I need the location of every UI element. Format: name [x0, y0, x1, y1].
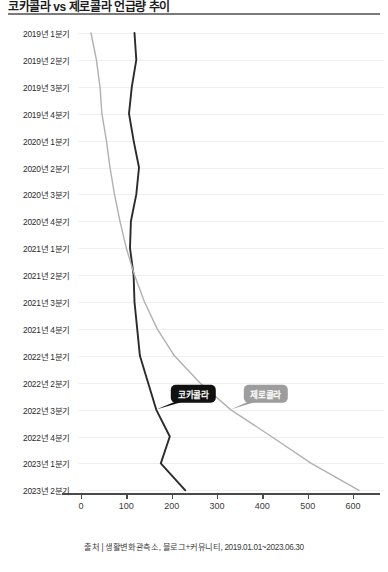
x-axis-tick-label: 0	[78, 501, 83, 511]
x-axis-tick-label: 100	[119, 501, 134, 511]
page-title: 코카콜라 vs 제로콜라 언급량 추이	[8, 0, 170, 14]
source-note: 출처 | 생활변화관측소, 블로그+커뮤니티, 2019.01.01~2023.…	[0, 540, 388, 552]
x-axis-tick	[262, 493, 263, 499]
title-divider	[8, 13, 380, 15]
x-axis-tick	[353, 493, 354, 499]
x-axis-tick	[217, 493, 218, 499]
series-line-coke	[129, 33, 185, 490]
series-label-zero: 제로콜라	[243, 384, 287, 403]
chart-plot-area: 2019년 1분기2019년 2분기2019년 3분기2019년 4분기2020…	[0, 20, 388, 515]
x-axis-tick	[308, 493, 309, 499]
series-lines	[0, 20, 388, 515]
series-label-coke: 코카콜라	[171, 384, 215, 403]
x-axis-tick-label: 200	[164, 501, 179, 511]
x-axis-tick	[172, 493, 173, 499]
x-axis-line	[62, 493, 380, 495]
x-axis-tick-label: 300	[209, 501, 224, 511]
chart-page: 코카콜라 vs 제로콜라 언급량 추이 2019년 1분기2019년 2분기20…	[0, 0, 388, 572]
x-axis-tick-label: 500	[300, 501, 315, 511]
x-axis-tick-label: 400	[255, 501, 270, 511]
x-axis: 0100200300400500600	[0, 493, 388, 533]
x-axis-tick	[126, 493, 127, 499]
x-axis-tick-label: 600	[345, 501, 360, 511]
x-axis-tick	[81, 493, 82, 499]
